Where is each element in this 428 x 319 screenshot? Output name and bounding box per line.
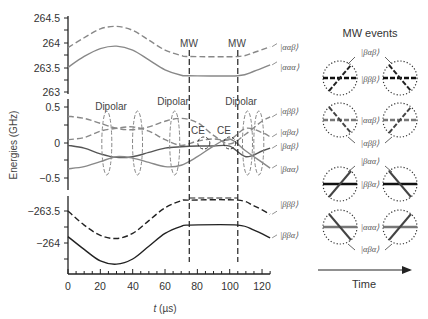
mw-event-circle-8 <box>383 210 417 244</box>
mw-state-aaa: |ααα⟩ <box>361 222 381 232</box>
transition-arrow-1 <box>348 57 355 64</box>
svg-text:0.5: 0.5 <box>45 101 60 113</box>
transition-arrow-7 <box>348 244 355 250</box>
svg-text:20: 20 <box>94 280 106 292</box>
svg-text:80: 80 <box>191 280 203 292</box>
x-tick-labels: 0 20 40 60 80 100 120 <box>65 280 271 292</box>
plot-area <box>64 16 277 274</box>
mw-state-aab: |ααβ⟩ <box>361 115 380 125</box>
state-label-aba: |αβα⟩ <box>280 127 299 137</box>
series-line-bottom-0 <box>68 200 270 239</box>
mw-event-circle-2 <box>383 61 417 95</box>
state-label-bab: |βαβ⟩ <box>280 141 299 151</box>
mw-state-baa: |βαα⟩ <box>361 156 380 166</box>
series-line-top-1 <box>68 46 270 76</box>
mw-events-panel: MW events |βαβ⟩ |βββ⟩ |ααβ⟩ |αββ⟩ |βαα⟩ … <box>318 27 417 290</box>
time-label: Time <box>352 278 376 290</box>
ce-label-1: CE <box>191 125 205 136</box>
dipolar-ellipse-1 <box>102 111 112 175</box>
y-axis-label: Energies (GHz) <box>8 111 19 180</box>
time-arrow-head <box>402 266 412 274</box>
energy-level-figure: Energies (GHz) t (µs) MW MW Dipolar Dipo… <box>0 0 428 319</box>
transition-arrow-5 <box>348 166 355 172</box>
transition-arrow-2 <box>385 57 392 64</box>
mw-events-title: MW events <box>342 27 398 39</box>
mw-label-1: MW <box>180 38 198 49</box>
mw-event-circle-6 <box>383 167 417 201</box>
label-leader <box>272 235 277 238</box>
mw-state-bbb: |βββ⟩ <box>361 74 380 84</box>
transition-arrow-3 <box>348 137 355 143</box>
y-tick-labels: 264.5 264 263.5 263 0.5 0 −0.5 −263.5 −2… <box>28 12 61 249</box>
dipolar-label-2: Dipolar <box>157 96 189 107</box>
mw-event-circle-7 <box>323 210 357 244</box>
mw-event-circle-4 <box>383 103 417 137</box>
svg-text:0: 0 <box>65 280 71 292</box>
state-label-abb: |αββ⟩ <box>280 106 299 116</box>
dipolar-label-3: Dipolar <box>225 96 257 107</box>
series-line-middle-0 <box>68 116 270 144</box>
mw-label-2: MW <box>228 38 246 49</box>
label-leader <box>272 114 277 117</box>
svg-text:263: 263 <box>42 86 60 98</box>
dipolar-ellipse-4 <box>242 111 252 175</box>
ce-label-2: CE <box>217 125 231 136</box>
label-leader <box>272 211 277 214</box>
label-leader <box>272 134 277 137</box>
mw-state-aba: |αβα⟩ <box>361 244 380 254</box>
svg-text:120: 120 <box>253 280 271 292</box>
transition-arrow-8 <box>385 244 392 250</box>
label-leader <box>272 145 277 148</box>
dipolar-ellipse-5 <box>254 111 264 175</box>
series-line-middle-2 <box>68 145 270 157</box>
series-line-bottom-1 <box>68 225 270 265</box>
svg-text:263.5: 263.5 <box>34 62 60 74</box>
svg-text:264: 264 <box>42 37 60 49</box>
label-leader <box>272 44 277 47</box>
svg-text:264.5: 264.5 <box>34 12 60 24</box>
mw-state-abb: |αββ⟩ <box>361 138 380 148</box>
series-line-middle-1 <box>68 127 270 146</box>
mw-state-bba: |ββα⟩ <box>361 179 380 189</box>
state-label-bbb: |βββ⟩ <box>280 199 299 209</box>
label-leader <box>272 165 277 168</box>
mw-event-circle-5 <box>323 167 357 201</box>
svg-text:40: 40 <box>127 280 139 292</box>
svg-text:60: 60 <box>159 280 171 292</box>
state-label-baa: |βαα⟩ <box>280 164 299 174</box>
svg-text:0: 0 <box>54 137 60 149</box>
svg-text:−0.5: −0.5 <box>39 172 60 184</box>
state-label-aab: |ααβ⟩ <box>280 42 299 52</box>
dipolar-ellipse-2 <box>133 111 143 175</box>
mw-event-circle-3 <box>323 103 357 137</box>
svg-text:100: 100 <box>221 280 239 292</box>
x-axis-label: t (µs) <box>154 303 177 314</box>
mw-state-bab: |βαβ⟩ <box>361 47 380 57</box>
svg-text:−263.5: −263.5 <box>28 205 61 217</box>
mw-event-circle-1 <box>323 61 357 95</box>
state-label-bba: |ββα⟩ <box>280 230 299 240</box>
ce-circle-1 <box>198 137 210 149</box>
state-label-aaa: |ααα⟩ <box>280 62 300 72</box>
label-leader <box>272 62 277 65</box>
transition-arrow-4 <box>385 137 392 143</box>
svg-text:−264: −264 <box>36 237 60 249</box>
dipolar-label-1: Dipolar <box>95 101 127 112</box>
